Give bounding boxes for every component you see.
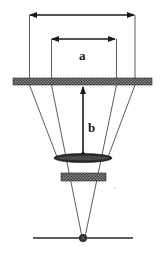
outer-dimension-arrow bbox=[30, 15, 136, 79]
diagram-canvas: a b bbox=[0, 0, 162, 259]
focal-point-texture bbox=[81, 236, 85, 240]
label-a: a bbox=[79, 48, 86, 63]
label-b: b bbox=[88, 120, 95, 135]
speck bbox=[114, 187, 115, 188]
optical-diagram: a b bbox=[0, 0, 162, 259]
distance-arrow-b bbox=[79, 87, 87, 156]
small-hatched-block bbox=[61, 173, 106, 181]
lens-texture bbox=[57, 156, 109, 160]
hatched-plate bbox=[13, 78, 152, 85]
